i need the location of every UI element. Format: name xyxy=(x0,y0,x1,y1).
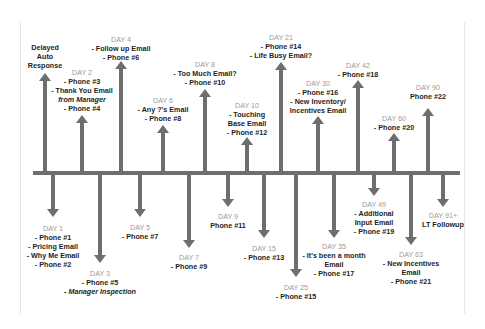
day-label: DAY 15 xyxy=(244,244,284,253)
day49-arrow-icon xyxy=(368,175,380,196)
action-line: - Phone #10 xyxy=(173,78,236,87)
action-line: - Phone #12 xyxy=(227,128,267,137)
day-label: DAY 10 xyxy=(227,101,267,110)
milestone-day8: DAY 8- Too Much Email?- Phone #10 xyxy=(173,60,236,87)
action-line: - Phone #2 xyxy=(27,260,80,269)
day-label: DAY 60 xyxy=(374,114,414,123)
action-line: Auto xyxy=(28,52,62,61)
action-line: - Phone #3 xyxy=(51,77,113,86)
milestone-day25: DAY 25- Phone #15 xyxy=(276,283,316,301)
milestone-day3: DAY 3- Phone #5- Manager Inspection xyxy=(64,269,136,296)
action-line: - Phone #5 xyxy=(64,278,136,287)
action-line: LT Followup xyxy=(422,220,464,229)
day60-arrow-icon xyxy=(388,133,400,171)
day-label: DAY 7 xyxy=(171,253,207,262)
day-label: DAY 8 xyxy=(173,60,236,69)
milestone-day9: DAY 9Phone #11 xyxy=(210,212,246,230)
milestone-day90: DAY 90Phone #22 xyxy=(410,83,446,101)
action-line: - Touching xyxy=(227,110,267,119)
milestone-day6: DAY 6- Any ?'s Email- Phone #8 xyxy=(138,96,189,123)
day-label: DAY 6 xyxy=(138,96,189,105)
action-line: - Too Much Email? xyxy=(173,69,236,78)
day30-arrow-icon xyxy=(312,116,324,171)
day15-arrow-icon xyxy=(258,175,270,238)
action-line: Email xyxy=(383,268,439,277)
action-line: - Phone #20 xyxy=(374,123,414,132)
day8-arrow-icon xyxy=(199,89,211,171)
milestone-auto: DelayedAutoResponse xyxy=(28,43,62,70)
day90-arrow-icon xyxy=(422,108,434,171)
action-line: - Phone #8 xyxy=(138,114,189,123)
day-label: DAY 35 xyxy=(302,242,365,251)
milestone-day60: DAY 60- Phone #20 xyxy=(374,114,414,132)
action-line: Input Email xyxy=(354,218,394,227)
day-label: DAY 21 xyxy=(250,33,312,42)
day-label: DAY 30 xyxy=(290,79,346,88)
milestone-day35: DAY 35- It's been a monthEmail- Phone #1… xyxy=(302,242,365,278)
milestone-day49: DAY 49- AdditionalInput Email- Phone #19 xyxy=(354,200,394,236)
action-line: - Phone #4 xyxy=(51,104,113,113)
action-line: Email xyxy=(302,260,365,269)
day35-arrow-icon xyxy=(328,175,340,238)
day2-arrow-icon xyxy=(76,115,88,171)
action-line: - Phone #21 xyxy=(383,277,439,286)
action-line: - Additional xyxy=(354,209,394,218)
action-line: - Pricing Email xyxy=(27,242,80,251)
day-label: DAY 5 xyxy=(122,223,158,232)
action-line: - Phone #9 xyxy=(171,262,207,271)
action-line: - Phone #7 xyxy=(122,232,158,241)
milestone-day21: DAY 21- Phone #14- Life Busy Email? xyxy=(250,33,312,60)
milestone-day1: DAY 1- Phone #1- Pricing Email- Why Me E… xyxy=(27,224,80,269)
auto-arrow-icon xyxy=(39,73,51,171)
milestone-day2: DAY 2- Phone #3- Thank You Emailfrom Man… xyxy=(51,68,113,113)
action-line: Delayed xyxy=(28,43,62,52)
action-line: - Phone #17 xyxy=(302,269,365,278)
day42-arrow-icon xyxy=(352,80,364,171)
action-line: - Phone #1 xyxy=(27,233,80,242)
action-line: Base Email xyxy=(227,119,267,128)
day25-arrow-icon xyxy=(290,175,302,277)
action-line: - Phone #6 xyxy=(91,53,150,62)
day-label: DAY 49 xyxy=(354,200,394,209)
day91-arrow-icon xyxy=(437,175,449,207)
day1-arrow-icon xyxy=(47,175,59,217)
day-label: DAY 4 xyxy=(91,35,150,44)
day-label: DAY 2 xyxy=(51,68,113,77)
action-line: - Thank You Email xyxy=(51,86,113,95)
action-line: - Phone #15 xyxy=(276,292,316,301)
milestone-day63: DAY 63- New IncentivesEmail- Phone #21 xyxy=(383,250,439,286)
day4-arrow-icon xyxy=(115,61,127,171)
day9-arrow-icon xyxy=(222,175,234,207)
milestone-day4: DAY 4- Follow up Email- Phone #6 xyxy=(91,35,150,62)
day-label: DAY 63 xyxy=(383,250,439,259)
milestone-day5: DAY 5- Phone #7 xyxy=(122,223,158,241)
action-line: Phone #11 xyxy=(210,221,246,230)
action-line: - Phone #13 xyxy=(244,253,284,262)
day63-arrow-icon xyxy=(405,175,417,245)
day7-arrow-icon xyxy=(183,175,195,248)
day-label: DAY 25 xyxy=(276,283,316,292)
action-line: - Phone #18 xyxy=(338,70,378,79)
day-label: DAY 1 xyxy=(27,224,80,233)
day-label: DAY 3 xyxy=(64,269,136,278)
milestone-day15: DAY 15- Phone #13 xyxy=(244,244,284,262)
action-line: - Phone #14 xyxy=(250,42,312,51)
action-line: - Manager Inspection xyxy=(64,287,136,296)
day21-arrow-icon xyxy=(275,62,287,171)
milestone-day42: DAY 42- Phone #18 xyxy=(338,61,378,79)
action-line: Phone #22 xyxy=(410,92,446,101)
action-line: - Phone #16 xyxy=(290,88,346,97)
milestone-day30: DAY 30- Phone #16- New Inventory/Incenti… xyxy=(290,79,346,115)
action-line: Incentives Email xyxy=(290,106,346,115)
day3-arrow-icon xyxy=(94,175,106,263)
action-line: - Phone #19 xyxy=(354,227,394,236)
day-label: DAY 42 xyxy=(338,61,378,70)
day-label: DAY 9 xyxy=(210,212,246,221)
action-line: - New Inventory/ xyxy=(290,97,346,106)
action-line: - Follow up Email xyxy=(91,44,150,53)
action-line: from Manager xyxy=(51,95,113,104)
milestone-day7: DAY 7- Phone #9 xyxy=(171,253,207,271)
day6-arrow-icon xyxy=(157,125,169,171)
day-label: DAY 91+ xyxy=(422,211,464,220)
action-line: - It's been a month xyxy=(302,251,365,260)
